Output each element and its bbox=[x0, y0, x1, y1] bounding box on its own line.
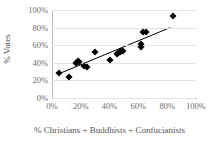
gridline bbox=[52, 28, 196, 29]
x-axis-tick-label: 80% bbox=[159, 102, 175, 111]
gridline bbox=[52, 10, 196, 11]
trendline bbox=[52, 10, 196, 98]
y-axis-tick-label: 40% bbox=[32, 59, 48, 68]
y-axis-tick-label: 80% bbox=[32, 24, 48, 33]
x-axis-tick-label: 100% bbox=[186, 102, 206, 111]
plot-area bbox=[52, 10, 196, 98]
y-axis-tick-label: 100% bbox=[28, 6, 48, 15]
x-axis-tick-label: 0% bbox=[46, 102, 57, 111]
y-axis-tick-label: 60% bbox=[32, 41, 48, 50]
gridline bbox=[52, 45, 196, 46]
x-axis-tick-label: 20% bbox=[73, 102, 89, 111]
y-axis-tick-label: 20% bbox=[32, 76, 48, 85]
x-axis-title: % Christians + Buddhists + Confucianists bbox=[0, 125, 219, 135]
gridline bbox=[52, 98, 196, 99]
x-axis-tick-label: 60% bbox=[131, 102, 147, 111]
y-axis-title: % Votes bbox=[2, 19, 12, 79]
x-axis-tick-label: 40% bbox=[102, 102, 118, 111]
scatter-chart: 0%20%40%60%80%100% % Christians + Buddhi… bbox=[0, 0, 219, 145]
gridline bbox=[52, 80, 196, 81]
